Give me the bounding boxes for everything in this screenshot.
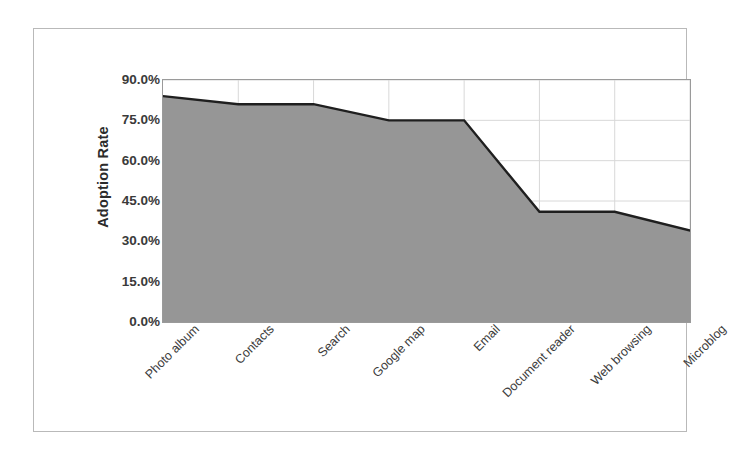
y-tick-label: 45.0% <box>104 193 160 208</box>
plot-area <box>162 79 691 323</box>
x-tick-label: Search <box>315 322 353 360</box>
y-tick-label: 60.0% <box>104 152 160 167</box>
x-tick-label: Document reader <box>500 322 578 400</box>
y-tick-label: 90.0% <box>104 72 160 87</box>
x-tick-label: Photo album <box>142 322 202 382</box>
x-tick-label: Microblog <box>681 322 729 370</box>
y-tick-label: 75.0% <box>104 112 160 127</box>
area-chart-svg <box>163 80 690 322</box>
y-tick-label: 30.0% <box>104 233 160 248</box>
area-fill-path <box>163 96 690 322</box>
x-tick-label: Contacts <box>232 322 277 367</box>
y-tick-label: 0.0% <box>104 314 160 329</box>
x-axis-tick-labels: Photo albumContactsSearchGoogle mapEmail… <box>162 322 689 442</box>
y-tick-label: 15.0% <box>104 273 160 288</box>
x-tick-label: Email <box>471 322 503 354</box>
x-tick-label: Web browsing <box>588 322 654 388</box>
chart-outer-frame: Adoption Rate 90.0%75.0%60.0%45.0%30.0%1… <box>33 28 687 432</box>
x-tick-label: Google map <box>370 322 428 380</box>
y-axis-tick-labels: 90.0%75.0%60.0%45.0%30.0%15.0%0.0% <box>104 79 160 321</box>
